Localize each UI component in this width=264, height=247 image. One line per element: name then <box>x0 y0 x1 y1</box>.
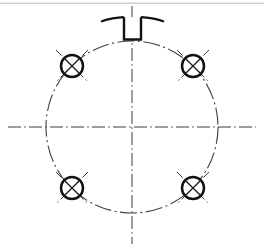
flange-edge-right <box>141 17 164 21</box>
top-keyway-assembly <box>101 17 164 39</box>
hole-lower-left <box>56 172 88 204</box>
hole-upper-right <box>177 50 209 82</box>
flange-edge-left <box>101 17 124 21</box>
hole-lower-right <box>177 172 209 204</box>
engineering-drawing-canvas <box>0 0 264 247</box>
keyway-slot-outline <box>124 17 141 39</box>
drawing-surface <box>0 0 264 247</box>
hole-upper-left <box>56 50 88 82</box>
